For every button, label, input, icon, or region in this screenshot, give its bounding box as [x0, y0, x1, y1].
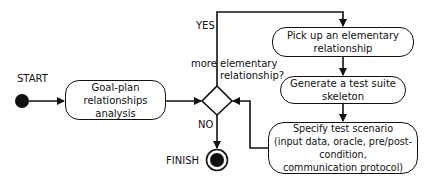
goal-plan-line-2: analysis	[66, 107, 165, 120]
specify-line-3: communication protocol)	[269, 161, 417, 174]
decision-question-more: more	[191, 58, 217, 70]
start-node-icon	[15, 94, 29, 108]
start-label: START	[17, 73, 48, 85]
decision-diamond	[202, 86, 232, 115]
specify-line-2: (input data, oracle, pre/post-condition,	[269, 135, 417, 161]
decision-question-elementary: elementary	[220, 58, 277, 70]
yes-label: YES	[196, 20, 215, 32]
edge-specify-to-decision	[233, 101, 268, 148]
finish-label: FINISH	[166, 155, 199, 167]
generate-text: Generate a test suite skeleton	[281, 77, 405, 103]
pick-up-relationship-node: Pick up an elementary relationship	[272, 27, 414, 57]
generate-skeleton-node: Generate a test suite skeleton	[280, 76, 406, 104]
goal-plan-line-1: Goal-plan relationships	[66, 81, 165, 107]
finish-inner-dot	[210, 153, 224, 167]
decision-question-relationship: relationship?	[220, 70, 284, 82]
specify-line-1: Specify test scenario	[269, 122, 417, 135]
goal-plan-analysis-node: Goal-plan relationships analysis	[65, 80, 166, 120]
pick-up-text: Pick up an elementary relationship	[273, 29, 413, 55]
no-label: NO	[198, 119, 213, 131]
specify-scenario-node: Specify test scenario (input data, oracl…	[268, 122, 418, 174]
